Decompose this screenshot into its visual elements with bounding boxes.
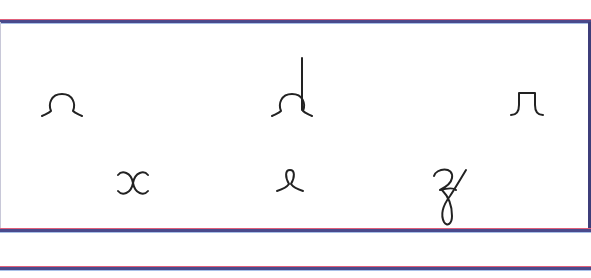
cursive-x-fragment-icon: x bbox=[116, 169, 150, 197]
cursive-d-fragment-icon: d bbox=[270, 56, 314, 118]
box-left-border bbox=[0, 22, 1, 232]
glyph-label: e bbox=[275, 195, 276, 196]
box-bottom-rule-line bbox=[0, 228, 591, 232]
glyph-label: d bbox=[270, 118, 271, 119]
cursive-e-fragment-icon: e bbox=[275, 167, 305, 195]
glyph-label: a bbox=[40, 118, 41, 119]
writing-rule-line bbox=[0, 266, 591, 270]
top-rule-line bbox=[0, 19, 591, 23]
glyph-label: n bbox=[509, 117, 510, 118]
glyph-label: x bbox=[116, 197, 117, 198]
cursive-a-fragment-icon: a bbox=[40, 88, 84, 118]
cursive-z-fragment-icon: z bbox=[430, 166, 470, 228]
cursive-n-fragment-icon: n bbox=[509, 89, 545, 117]
